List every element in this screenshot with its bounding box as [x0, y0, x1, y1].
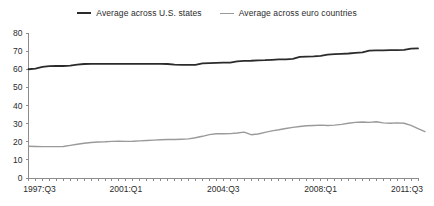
x-axis-tick-label: 2008:Q1 — [304, 184, 337, 194]
y-axis-tick-label: 80 — [13, 28, 23, 38]
y-axis-tick-label: 50 — [13, 82, 23, 92]
y-axis-tick-label: 30 — [13, 119, 23, 129]
series-line-euro-countries — [29, 122, 425, 147]
y-axis-tick-label: 10 — [13, 155, 23, 165]
y-axis-tick-label: 20 — [13, 137, 23, 147]
y-axis-tick-label: 60 — [13, 64, 23, 74]
x-axis-tick-label: 2011:Q3 — [391, 184, 423, 194]
y-axis-tick-label: 40 — [13, 101, 23, 111]
y-axis-tick-label: 70 — [13, 46, 23, 56]
plot-area: 01020304050607080 1997:Q32001:Q12004:Q32… — [0, 0, 434, 206]
x-axis-tick-label: 2004:Q3 — [207, 184, 240, 194]
y-axis-tick-label: 0 — [18, 173, 23, 183]
x-axis: 1997:Q32001:Q12004:Q32008:Q12011:Q3 — [23, 178, 423, 194]
series-line-us-states — [29, 48, 419, 69]
line-chart: Average across U.S. states Average acros… — [0, 0, 434, 206]
x-axis-tick-label: 2001:Q1 — [110, 184, 143, 194]
data-series-group — [29, 48, 425, 146]
x-axis-tick-label: 1997:Q3 — [23, 184, 56, 194]
y-axis: 01020304050607080 — [13, 28, 28, 183]
